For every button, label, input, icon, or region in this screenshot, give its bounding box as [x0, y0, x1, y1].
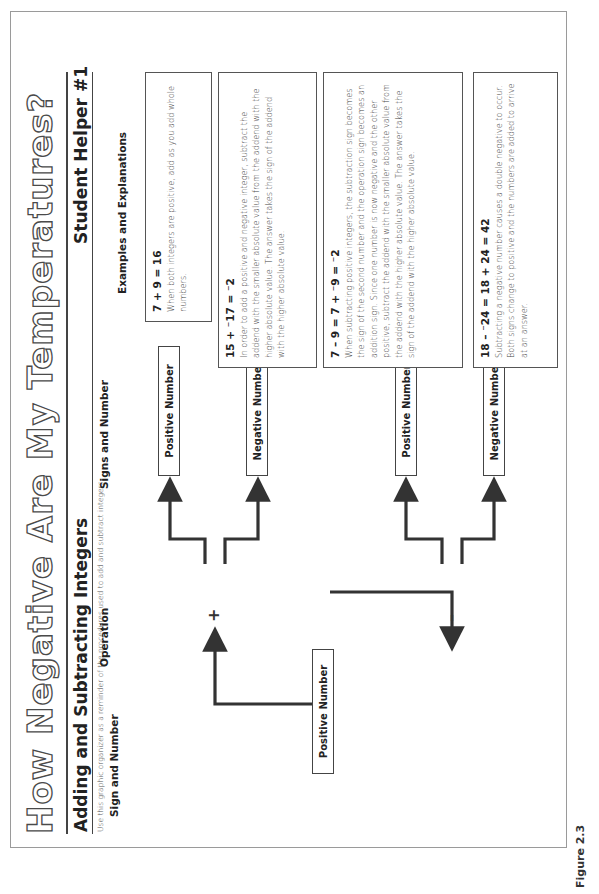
example-box-2: 15 + ⁻17 = ⁻2 In order to add a positive…: [218, 72, 317, 368]
example-explanation: In order to add a positive and negative …: [238, 81, 288, 358]
example-equation: 7 + 9 = 16: [151, 81, 163, 312]
worksheet-page: How Negative Are My Temperatures? Adding…: [0, 0, 599, 894]
plus-positive-number-box: Positive Number: [158, 346, 180, 476]
example-explanation: Subtracting a negative number causes a d…: [493, 81, 530, 358]
example-box-1: 7 + 9 = 16 When both integers are positi…: [145, 72, 212, 322]
example-equation: 18 – ⁻24 = 18 + 24 = 42: [479, 81, 491, 358]
example-equation: 15 + ⁻17 = ⁻2: [224, 81, 236, 358]
start-positive-number-box: Positive Number: [312, 649, 334, 774]
minus-operation-symbol: –: [441, 614, 460, 622]
example-box-4: 18 – ⁻24 = 18 + 24 = 42 Subtracting a ne…: [473, 72, 558, 368]
plus-operation-symbol: +: [204, 609, 223, 622]
example-box-3: 7 – 9 = 7 + ⁻9 = ⁻2 When subtracting pos…: [323, 72, 463, 368]
figure-label: Figure 2.3: [574, 825, 587, 888]
example-explanation: When both integers are positive, add as …: [165, 81, 190, 312]
example-explanation: When subtracting positive integers, the …: [343, 81, 417, 358]
example-equation: 7 – 9 = 7 + ⁻9 = ⁻2: [329, 81, 341, 358]
